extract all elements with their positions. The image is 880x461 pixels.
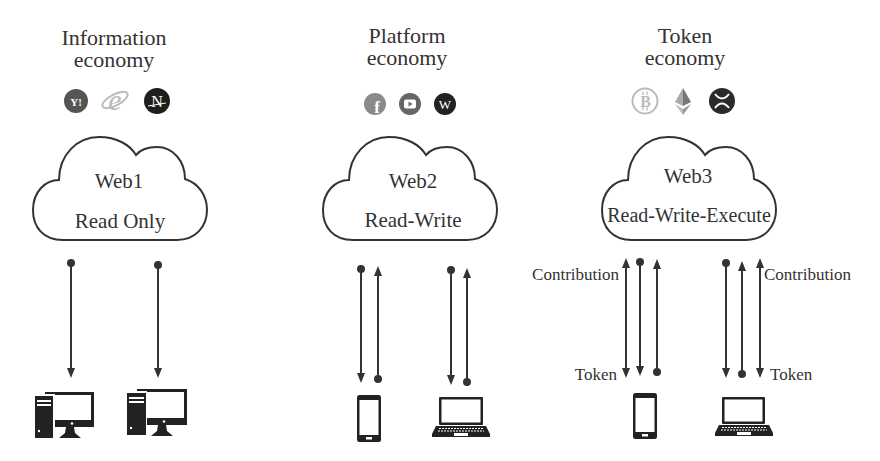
svg-text:W: W [439,97,452,112]
flow-arrow-down [447,266,455,385]
flow-arrow-down [67,259,75,378]
cloud-mode: Read-Write-Execute [607,204,771,226]
ethereum-icon [675,88,691,115]
column-web3: Token economy B Web3 Read-Write-Execute [532,23,851,439]
smartphone-icon [357,395,381,442]
contribution-label: Contribution [764,265,851,284]
svg-text:e: e [108,83,121,116]
desktop-computer-icon [33,392,94,440]
flow-arrow-up [374,266,382,383]
desktop-computer-icon [125,389,187,437]
column-web2: Platform economy f W Web2 Read-Write [323,23,497,442]
svg-text:B: B [640,93,651,110]
cloud-name: Web2 [389,169,437,193]
svg-text:f: f [374,98,380,117]
yahoo-icon: Y! [64,89,88,113]
youtube-icon [399,93,421,115]
bitcoin-icon: B [633,89,658,114]
column-title-line2: economy [367,45,448,70]
token-label: Token [575,365,618,384]
token-label: Token [770,365,813,384]
flow-arrow-up [653,259,661,376]
cloud-name: Web3 [664,164,712,188]
xrp-icon [709,88,735,114]
web-evolution-diagram: Information economy Y! e N Web1 Read Onl… [0,0,880,461]
svg-text:N: N [151,93,163,110]
flow-arrow-bidirectional [622,258,630,378]
flow-arrow-bidirectional [756,258,764,378]
cloud-mode: Read-Write [364,208,461,232]
column-title-line2: economy [74,47,155,72]
laptop-icon [715,397,773,436]
svg-text:Y!: Y! [70,96,82,108]
flow-arrow-down [357,265,365,383]
laptop-icon [432,397,490,437]
column-title-line2: economy [645,45,726,70]
contribution-label: Contribution [532,265,619,284]
flow-arrow-down [722,259,730,378]
flow-arrow-down [154,261,162,378]
flow-arrow-up [463,268,471,386]
smartphone-icon [633,393,657,439]
cloud-name: Web1 [95,169,143,193]
flow-arrow-up [738,261,746,378]
wordpress-icon: W [434,93,456,115]
facebook-icon: f [364,93,386,117]
internet-explorer-icon: e [100,83,130,116]
netscape-icon: N [144,88,170,114]
flow-arrow-down [636,258,644,376]
cloud-mode: Read Only [75,209,166,233]
column-web1: Information economy Y! e N Web1 Read Onl… [33,25,207,440]
